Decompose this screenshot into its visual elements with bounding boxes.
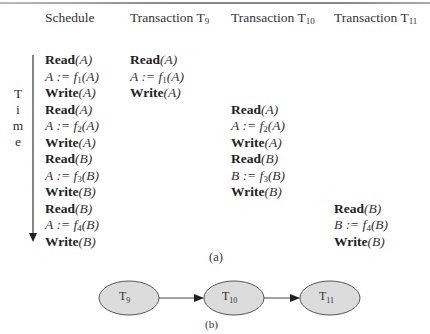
operation-arg: (B) [79,234,96,249]
operation-arg: (B) [75,201,92,216]
step-row: A := f4(B) [45,217,99,234]
node-t10-label: T10 [222,289,237,305]
empty-row [334,102,388,119]
assignment-op: := [138,69,158,84]
step-row: Write(B) [334,234,388,251]
assignment-lhs: A [45,118,53,133]
operation-arg: (B) [75,151,92,166]
step-row: Read(A) [231,102,285,119]
step-row: A := f1(A) [45,69,99,86]
assignment-op: := [239,168,259,183]
assignment-op: := [53,118,73,133]
empty-row [231,85,285,102]
assignment-op: := [239,118,259,133]
operation-arg: (B) [79,184,96,199]
t9-column: Read(A)A := f1(A)Write(A) [130,52,184,102]
step-row: B := f3(B) [231,168,285,185]
caption-a: (a) [209,250,223,265]
operation-arg: (A) [261,102,278,117]
assignment-op: := [342,217,362,232]
operation-name: Write [334,234,368,249]
operation-name: Write [231,184,265,199]
empty-row [334,135,388,152]
step-row: Read(A) [45,52,99,69]
step-row: Write(A) [231,135,285,152]
caption-b: (b) [205,318,218,330]
empty-row [334,184,388,201]
operation-name: Write [130,85,164,100]
operation-name: Read [45,201,75,216]
operation-arg: (A) [75,102,92,117]
step-row: Read(B) [45,151,99,168]
operation-arg: (A) [160,52,177,67]
function-arg: (B) [371,217,388,232]
operation-name: Read [45,151,75,166]
node-t11-label: T11 [319,289,334,305]
step-row: A := f2(A) [45,118,99,135]
operation-arg: (B) [368,234,385,249]
step-row: B := f4(B) [334,217,388,234]
assignment-lhs: A [231,118,239,133]
operation-name: Read [130,52,160,67]
operation-name: Read [45,102,75,117]
assignment-op: := [53,69,73,84]
assignment-lhs: B [334,217,342,232]
operation-arg: (A) [265,135,282,150]
node-t9-label: T9 [119,289,130,305]
step-row: Write(B) [45,184,99,201]
empty-row [334,168,388,185]
step-row: A := f2(A) [231,118,285,135]
function-arg: (A) [82,118,99,133]
empty-row [334,52,388,69]
operation-arg: (B) [265,184,282,199]
operation-arg: (A) [79,135,96,150]
step-row: Read(B) [334,201,388,218]
step-row: Write(B) [45,234,99,251]
step-row: Read(B) [231,151,285,168]
step-row: Read(A) [45,102,99,119]
function-arg: (A) [167,69,184,84]
t10-column: Read(A)A := f2(A)Write(A)Read(B)B := f3(… [231,52,285,201]
step-row: Write(A) [45,135,99,152]
operation-name: Write [231,135,265,150]
step-row: Write(A) [45,85,99,102]
step-row: Write(B) [231,184,285,201]
t11-column: Read(B)B := f4(B)Write(B) [334,52,388,250]
operation-name: Write [45,85,79,100]
operation-name: Write [45,135,79,150]
step-row: Read(A) [130,52,184,69]
empty-row [334,85,388,102]
time-arrow-icon [29,55,37,242]
operation-arg: (A) [164,85,181,100]
empty-row [334,151,388,168]
function-arg: (A) [268,118,285,133]
assignment-lhs: A [45,217,53,232]
function-arg: (B) [268,168,285,183]
empty-row [231,52,285,69]
function-arg: (B) [82,217,99,232]
assignment-lhs: B [231,168,239,183]
assignment-lhs: A [130,69,138,84]
step-row: Read(B) [45,201,99,218]
empty-row [334,69,388,86]
step-row: A := f3(B) [45,168,99,185]
schedule-column: Read(A)A := f1(A)Write(A)Read(A)A := f2(… [45,52,99,250]
step-row: A := f1(A) [130,69,184,86]
operation-name: Read [231,151,261,166]
assignment-op: := [53,217,73,232]
assignment-lhs: A [45,168,53,183]
operation-arg: (A) [75,52,92,67]
operation-arg: (A) [79,85,96,100]
step-row: Write(A) [130,85,184,102]
operation-arg: (B) [364,201,381,216]
function-arg: (B) [82,168,99,183]
empty-row [231,69,285,86]
operation-name: Write [45,234,79,249]
operation-name: Read [334,201,364,216]
assignment-op: := [53,168,73,183]
operation-arg: (B) [261,151,278,166]
function-arg: (A) [82,69,99,84]
operation-name: Read [231,102,261,117]
empty-row [334,118,388,135]
operation-name: Write [45,184,79,199]
